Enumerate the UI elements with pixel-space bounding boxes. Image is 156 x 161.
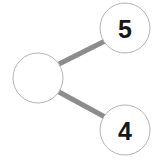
root-node-circle[interactable] — [13, 53, 63, 103]
diagram-canvas: 5 4 — [0, 0, 156, 161]
child-top-node-label: 5 — [118, 15, 132, 43]
node-child-top[interactable]: 5 — [100, 3, 150, 53]
node-child-bottom[interactable]: 4 — [100, 105, 150, 155]
edge-root-to-node-4 — [59, 92, 105, 117]
edge-group — [59, 41, 105, 117]
node-link-diagram: 5 4 — [0, 0, 156, 161]
node-root[interactable] — [13, 53, 63, 103]
child-bottom-node-label: 4 — [118, 117, 132, 145]
edge-root-to-node-5 — [59, 41, 105, 64]
